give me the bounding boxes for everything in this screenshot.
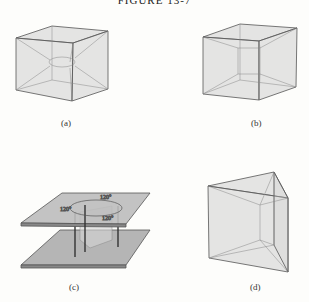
panel-b-cube [203, 24, 297, 100]
panel-d-label: (d) [250, 282, 261, 292]
panel-c-label: (c) [69, 282, 79, 292]
panel-a-label: (a) [61, 118, 71, 128]
panel-d-prism [208, 172, 288, 272]
angle-label-2: 120° [60, 206, 72, 212]
angle-label-3: 120° [102, 215, 114, 221]
panel-c-plates: 120° 120° 120° [21, 193, 150, 268]
figure-canvas: 120° 120° 120° [0, 0, 309, 302]
panel-a-cube [16, 26, 108, 101]
angle-label-1: 120° [100, 194, 112, 200]
panel-b-label: (b) [251, 118, 262, 128]
